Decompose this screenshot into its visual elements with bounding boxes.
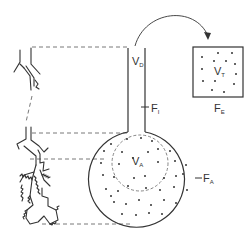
arrow-head-icon [204, 32, 211, 40]
airway-gap-dashed [26, 96, 32, 122]
lower-airway-tree-icon [17, 127, 59, 225]
label-vt-sub: T [221, 72, 225, 78]
label-expired-fraction: FE [214, 103, 225, 118]
label-va-sub: A [139, 162, 143, 168]
label-vd-sub: D [139, 62, 143, 68]
label-fi-main: F [151, 102, 158, 114]
label-fi-sub: I [158, 109, 160, 115]
label-dead-space-volume: VD [132, 56, 144, 71]
alveolar-compartment [88, 132, 184, 227]
label-fe-sub: E [221, 109, 225, 115]
upper-airway-branch-icon [14, 48, 40, 90]
label-tidal-volume: VT [214, 66, 225, 81]
label-inspired-fraction: FI [151, 103, 159, 118]
guide-lines [26, 47, 130, 224]
label-fe-main: F [214, 102, 221, 114]
expiration-arrow [135, 16, 211, 46]
arrow-curve [135, 16, 208, 46]
lung-model-diagram [0, 0, 250, 238]
label-fa-main: F [203, 172, 210, 184]
label-alveolar-fraction: FA [203, 173, 214, 188]
label-fa-sub: A [210, 179, 214, 185]
alveolar-gas-particles [100, 137, 188, 216]
label-alveolar-volume: VA [132, 156, 143, 171]
